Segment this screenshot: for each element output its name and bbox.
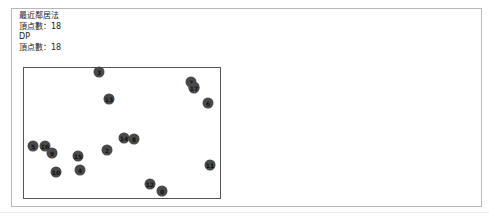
- result-info: 最近鄰居法 頂点數：18 DP 頂点數：18: [19, 11, 61, 53]
- method1-title: 最近鄰居法: [19, 11, 61, 22]
- graph-node: 4: [75, 165, 86, 176]
- graph-node: 6: [203, 98, 214, 109]
- graph-node: 17: [189, 83, 200, 94]
- graph-node: 13: [104, 94, 115, 105]
- graph-node: 14: [119, 133, 130, 144]
- graph-node: 2: [102, 145, 113, 156]
- graph-node: 10: [51, 167, 62, 178]
- graph-node: 15: [73, 151, 84, 162]
- method1-vertex-count: 頂点數：18: [19, 22, 61, 33]
- graph-node: 11: [205, 160, 216, 171]
- graph-node: 0: [157, 186, 168, 197]
- graph-canvas: 01234567891011121314151617: [23, 67, 221, 199]
- graph-node: 5: [28, 141, 39, 152]
- graph-node: 8: [129, 134, 140, 145]
- method2-vertex-count: 頂点數：18: [19, 43, 61, 54]
- divider: [0, 212, 489, 213]
- method2-title: DP: [19, 32, 61, 43]
- graph-node: 3: [94, 67, 105, 78]
- graph-node: 16: [40, 141, 51, 152]
- graph-node: 12: [145, 179, 156, 190]
